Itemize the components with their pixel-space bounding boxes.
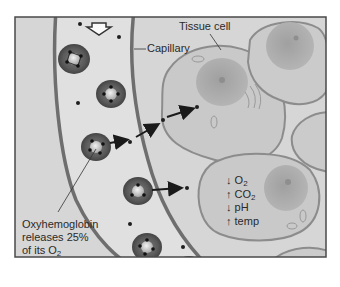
oxyhemoglobin-line1: Oxyhemoglobin (22, 218, 98, 231)
red-blood-cell-releasing (81, 133, 111, 161)
nucleus (264, 165, 308, 211)
tissue-conditions-list: ↓ O2 ↑ CO2 ↓ pH ↑ temp (226, 174, 259, 228)
red-blood-cell (174, 256, 204, 284)
red-blood-cell (96, 80, 126, 108)
oxyhemoglobin-label: Oxyhemoglobin releases 25% of its O2 (22, 218, 98, 257)
red-blood-cell (58, 44, 90, 74)
up-arrow-icon: ↑ (226, 215, 232, 227)
oxyhemoglobin-line3: of its O2 (22, 244, 98, 257)
down-arrow-icon: ↓ (226, 174, 232, 186)
red-blood-cell-releasing (123, 177, 153, 205)
down-arrow-icon: ↓ (226, 201, 232, 213)
condition-ph: ↓ pH (226, 201, 259, 215)
condition-temp: ↑ temp (226, 215, 259, 229)
up-arrow-icon: ↑ (226, 188, 232, 200)
tissue-cell-label: Tissue cell (179, 20, 231, 33)
condition-o2: ↓ O2 (226, 174, 259, 188)
oxyhemoglobin-line2: releases 25% (22, 231, 98, 244)
condition-co2: ↑ CO2 (226, 188, 259, 202)
capillary-label: Capillary (147, 42, 190, 55)
